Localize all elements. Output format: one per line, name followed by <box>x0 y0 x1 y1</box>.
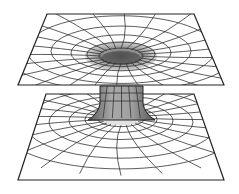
wormhole-diagram <box>0 0 239 194</box>
wormhole-figure <box>0 0 239 194</box>
